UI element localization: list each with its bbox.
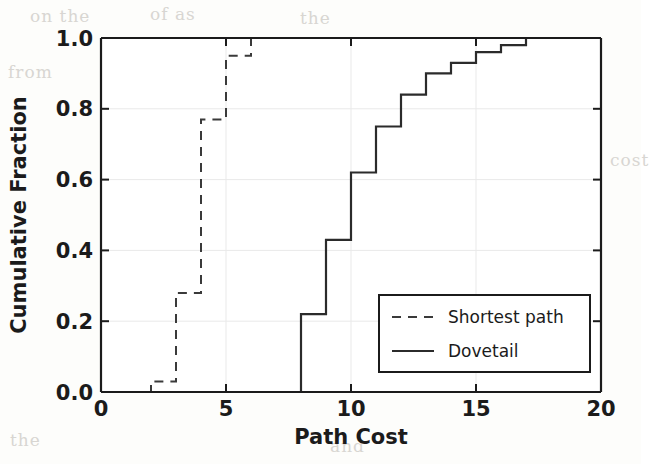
y-tick-label-5: 1.0 (56, 27, 93, 51)
x-tick-label-3: 15 (461, 397, 490, 421)
y-tick-label-1: 0.2 (56, 310, 93, 334)
x-tick-label-1: 5 (219, 397, 234, 421)
x-axis-title: Path Cost (294, 425, 408, 449)
y-tick-label-4: 0.8 (56, 97, 93, 121)
legend-label-shortest-path: Shortest path (448, 307, 564, 327)
y-axis-title: Cumulative Fraction (7, 96, 31, 334)
legend-label-dovetail: Dovetail (448, 341, 519, 361)
x-tick-label-4: 20 (586, 397, 615, 421)
y-tick-label-2: 0.4 (56, 239, 93, 263)
y-tick-label-3: 0.6 (56, 168, 93, 192)
legend: Shortest path Dovetail (379, 295, 590, 372)
y-tick-label-0: 0.0 (56, 381, 93, 405)
x-tick-label-0: 0 (94, 397, 109, 421)
x-tick-label-2: 10 (336, 397, 365, 421)
